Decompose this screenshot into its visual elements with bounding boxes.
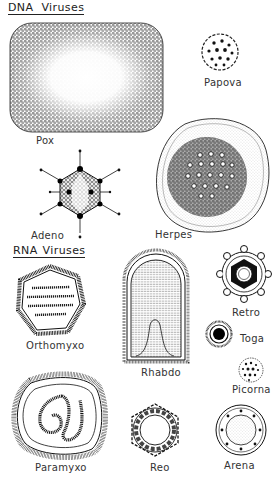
herpes-virus-drawing — [156, 119, 268, 232]
pox-label: Pox — [36, 135, 54, 146]
toga-label: Toga — [240, 333, 264, 344]
pox-virus-drawing — [10, 23, 163, 132]
picorna-virus-drawing — [239, 358, 263, 382]
paramyxo-label: Paramyxo — [35, 462, 87, 473]
orthomyxo-label: Orthomyxo — [26, 340, 84, 351]
retro-label: Retro — [232, 307, 260, 318]
herpes-label: Herpes — [155, 229, 192, 240]
papova-virus-drawing — [202, 34, 238, 70]
reo-label: Reo — [150, 462, 170, 473]
dna-heading-word: DNA — [8, 1, 33, 14]
adeno-label: Adeno — [31, 230, 64, 241]
rna-viruses-heading: RNAViruses — [13, 245, 85, 258]
retro-virus-drawing — [217, 246, 272, 303]
rhabdo-label: Rhabdo — [141, 367, 181, 378]
rna-heading-word: RNA — [13, 244, 38, 257]
picorna-label: Picorna — [232, 384, 271, 395]
dna-viruses-heading: DNAViruses — [8, 2, 84, 15]
orthomyxo-virus-drawing — [18, 266, 84, 334]
arena-label: Arena — [224, 460, 255, 471]
adeno-virus-drawing — [40, 150, 121, 239]
arena-virus-drawing — [216, 405, 266, 455]
papova-label: Papova — [204, 77, 242, 88]
paramyxo-virus-drawing — [14, 374, 106, 458]
toga-virus-drawing — [207, 322, 232, 347]
rhabdo-virus-drawing — [124, 250, 188, 362]
viruses-heading-word: Viruses — [41, 1, 84, 14]
viruses-heading-word: Viruses — [43, 244, 86, 257]
virus-illustrations — [0, 0, 279, 483]
reo-virus-drawing — [132, 404, 178, 456]
